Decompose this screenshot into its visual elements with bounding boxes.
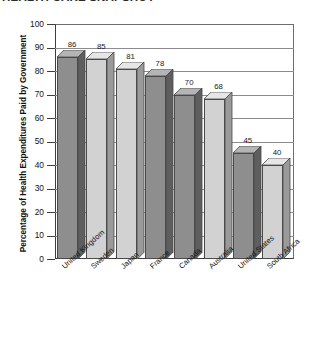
y-axis-tick-label: 60 — [16, 113, 44, 123]
chart-title: HEALTH CARE SNAPSHOT — [2, 0, 155, 3]
bar-front-face — [204, 99, 225, 259]
chart-figure: HEALTH CARE SNAPSHOT Percentage of Healt… — [0, 0, 309, 352]
bar-side-face — [225, 92, 232, 259]
y-axis-tick-label: 40 — [16, 160, 44, 170]
bar-side-face — [166, 69, 173, 259]
bar[interactable] — [204, 99, 225, 259]
bar-front-face — [145, 76, 166, 259]
bar-side-face — [137, 62, 144, 259]
y-axis-tick — [47, 95, 55, 96]
y-axis-tick-label: 30 — [16, 183, 44, 193]
bar[interactable] — [233, 153, 254, 259]
bar[interactable] — [145, 76, 166, 259]
y-axis-tick-label: 100 — [16, 19, 44, 29]
y-axis-tick-label: 90 — [16, 42, 44, 52]
bar-value-label: 68 — [205, 82, 233, 91]
bar[interactable] — [174, 95, 195, 260]
y-axis-tick — [47, 118, 55, 119]
bar-front-face — [116, 69, 137, 259]
y-axis-tick-label: 10 — [16, 230, 44, 240]
y-axis-tick-label: 80 — [16, 66, 44, 76]
y-axis-tick — [47, 24, 55, 25]
y-axis-tick — [47, 259, 55, 260]
bar-side-face — [195, 88, 202, 260]
bar[interactable] — [116, 69, 137, 259]
y-axis-tick — [47, 189, 55, 190]
bar-value-label: 70 — [175, 78, 203, 87]
y-axis-tick — [47, 212, 55, 213]
bar-value-label: 45 — [234, 136, 262, 145]
y-axis-tick-label: 20 — [16, 207, 44, 217]
bar-value-label: 86 — [58, 40, 86, 49]
bar-value-label: 40 — [263, 148, 291, 157]
y-axis-tick-label: 50 — [16, 136, 44, 146]
y-axis-tick — [47, 71, 55, 72]
bar-side-face — [78, 50, 85, 259]
bar-front-face — [174, 95, 195, 260]
bar-front-face — [57, 57, 78, 259]
bar-value-label: 81 — [117, 52, 145, 61]
bar[interactable] — [57, 57, 78, 259]
y-axis-tick — [47, 236, 55, 237]
y-axis-tick-label: 70 — [16, 89, 44, 99]
y-axis-tick — [47, 142, 55, 143]
y-axis-tick — [47, 48, 55, 49]
y-axis-tick-label: 0 — [16, 254, 44, 264]
bar-side-face — [107, 52, 114, 259]
bar-value-label: 78 — [146, 59, 174, 68]
bar-front-face — [233, 153, 254, 259]
bar-value-label: 85 — [87, 42, 115, 51]
y-axis-tick — [47, 165, 55, 166]
